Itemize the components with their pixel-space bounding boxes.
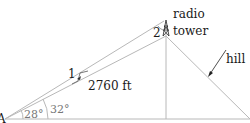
angle-2-label: 2 [153,26,161,40]
diagram-canvas: A 28° 32° 2760 ft 1 2 radio tower hill [0,0,250,123]
tower-label-line2: tower [173,24,208,38]
tower-label-line1: radio [173,7,205,21]
hill-pointer-line [210,50,226,74]
angle-label-28: 28° [24,108,44,121]
distance-label: 2760 ft [88,79,132,93]
angle-arc-28 [21,110,23,119]
angle-arc-32 [43,99,48,119]
sight-line-tower-top [5,21,164,119]
radio-tower-icon [163,20,169,36]
angle-label-32: 32° [50,103,70,116]
vertex-label-a: A [0,112,6,123]
hill-slope-line [166,36,250,119]
hill-label: hill [226,52,245,66]
hill-arrow-icon [208,71,213,77]
angle-1-label: 1 [68,67,76,81]
sight-line-tower-base [5,36,166,119]
